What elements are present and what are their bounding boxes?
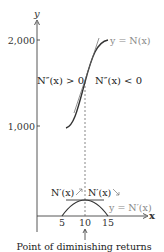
curve-N-prime-label: y = N′(x) [108, 202, 152, 213]
first-derivative-increasing-label: N′(x) [51, 187, 74, 198]
first-derivative-decreasing-label: N′(x) [88, 187, 111, 198]
caption: Point of diminishing returns [16, 241, 151, 252]
arrow-up-right-icon [76, 189, 82, 195]
x-tick-label-15: 15 [102, 217, 114, 228]
second-derivative-positive-label: N″(x) > 0 [37, 75, 84, 86]
x-tick-label-5: 5 [59, 217, 65, 228]
y-axis-label: y [33, 8, 40, 19]
y-tick-label-1000: 1,000 [8, 121, 35, 132]
second-derivative-negative-label: N″(x) < 0 [95, 75, 142, 86]
x-tick-label-10: 10 [79, 217, 91, 228]
arrow-down-right-icon [113, 189, 119, 195]
y-tick-label-2000: 2,000 [8, 35, 35, 46]
curve-N-label: y = N(x) [109, 35, 150, 46]
diminishing-returns-chart: y 2,000 1,000 x 5 10 15 y = N(x) N″(x) >… [0, 0, 164, 252]
